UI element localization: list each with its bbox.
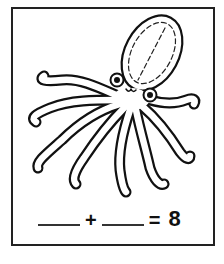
tentacles-fill (34, 76, 195, 192)
equation-total: 8 (168, 208, 180, 230)
answer-blank-1[interactable] (38, 224, 80, 226)
equals-sign: = (149, 210, 161, 230)
equation: + = 8 (38, 206, 208, 230)
answer-blank-2[interactable] (102, 224, 144, 226)
plus-sign: + (85, 210, 97, 230)
